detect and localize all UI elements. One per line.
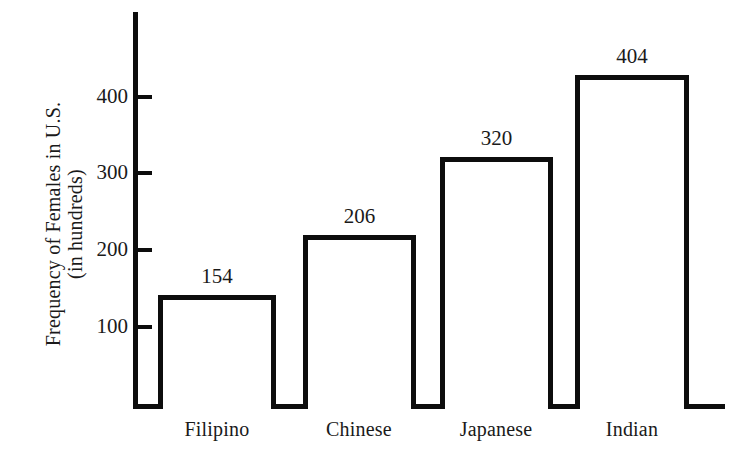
y-tick-label-200: 200: [70, 239, 128, 260]
y-tick-label-100: 100: [70, 316, 128, 337]
bar-value-indian: 404: [575, 46, 689, 67]
bar-value-filipino: 154: [158, 266, 276, 287]
y-axis-line: [133, 12, 138, 409]
category-label-indian: Indian: [565, 419, 699, 439]
bar-value-chinese: 206: [303, 206, 416, 227]
y-tick-label-400: 400: [70, 86, 128, 107]
bar-filipino: [158, 295, 276, 409]
y-tick-mark-300: [138, 171, 152, 175]
category-label-japanese: Japanese: [429, 419, 563, 439]
y-axis-title-line-1: Frequency of Females in U.S.: [42, 102, 64, 346]
y-tick-mark-200: [138, 248, 152, 252]
category-label-filipino: Filipino: [150, 419, 284, 439]
bar-chinese: [303, 235, 416, 409]
y-tick-mark-100: [138, 325, 152, 329]
bar-chart: Frequency of Females in U.S. (in hundred…: [0, 0, 741, 455]
y-axis-title: Frequency of Females in U.S. (in hundred…: [38, 14, 90, 434]
y-tick-mark-400: [138, 95, 152, 99]
y-tick-label-300: 300: [70, 162, 128, 183]
bar-japanese: [440, 157, 553, 409]
bar-value-japanese: 320: [440, 128, 553, 149]
category-label-chinese: Chinese: [292, 419, 426, 439]
y-axis-title-line-2: (in hundreds): [64, 169, 86, 279]
bar-indian: [575, 75, 689, 409]
